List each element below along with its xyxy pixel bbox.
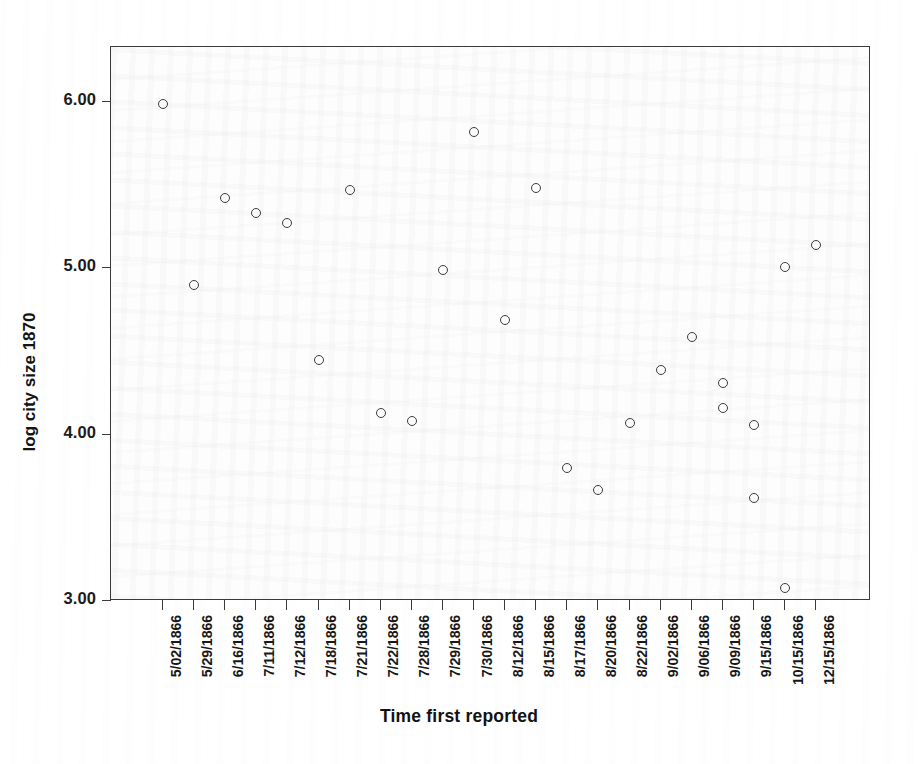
y-axis-tick <box>102 101 111 102</box>
x-axis-tick-label: 8/20/1866 <box>603 615 619 677</box>
data-point <box>376 408 386 418</box>
x-axis-tick <box>753 600 754 610</box>
x-axis-tick <box>318 600 319 610</box>
data-point <box>687 332 697 342</box>
y-axis-tick-label: 4.00 <box>63 423 96 442</box>
x-axis-tick-label: 6/16/1866 <box>230 615 246 677</box>
x-axis-tick-label: 8/22/1866 <box>634 615 650 677</box>
x-axis-tick-label: 7/28/1866 <box>416 615 432 677</box>
x-axis-tick <box>255 600 256 610</box>
x-axis-tick <box>162 600 163 610</box>
x-axis-tick <box>193 600 194 610</box>
data-point <box>718 403 728 413</box>
x-axis-tick <box>597 600 598 610</box>
x-axis-tick-label: 7/12/1866 <box>292 615 308 677</box>
x-axis-tick-label: 7/18/1866 <box>323 615 339 677</box>
data-point <box>749 493 759 503</box>
x-axis-tick <box>815 600 816 610</box>
x-axis-tick-label: 7/22/1866 <box>385 615 401 677</box>
data-point <box>189 280 199 290</box>
data-point <box>158 99 168 109</box>
data-point <box>749 420 759 430</box>
x-axis-tick <box>411 600 412 610</box>
x-axis-tick-label: 12/15/1866 <box>821 615 837 685</box>
data-point <box>593 485 603 495</box>
x-axis-tick-label: 7/29/1866 <box>447 615 463 677</box>
data-point <box>407 416 417 426</box>
x-axis-tick-label: 9/02/1866 <box>665 615 681 677</box>
data-point <box>220 193 230 203</box>
x-axis-tick <box>473 600 474 610</box>
scatter-chart: 3.004.005.006.00 log city size 1870 5/02… <box>0 0 918 764</box>
x-axis-tick-label: 7/11/1866 <box>261 615 277 676</box>
plot-paper-texture <box>111 47 869 599</box>
y-axis-tick-label: 6.00 <box>63 90 96 109</box>
x-axis-tick-label: 9/09/1866 <box>727 615 743 677</box>
x-axis-tick <box>442 600 443 610</box>
data-point <box>656 365 666 375</box>
x-axis-tick <box>380 600 381 610</box>
data-point <box>500 315 510 325</box>
x-axis-title: Time first reported <box>0 706 918 727</box>
data-point <box>531 183 541 193</box>
data-point <box>811 240 821 250</box>
data-point <box>780 583 790 593</box>
x-axis-tick <box>691 600 692 610</box>
x-axis-tick <box>504 600 505 610</box>
data-point <box>780 262 790 272</box>
y-axis-tick <box>102 434 111 435</box>
data-point <box>314 355 324 365</box>
x-axis-tick-label: 8/12/1866 <box>510 615 526 677</box>
x-axis-tick-label: 7/30/1866 <box>479 615 495 677</box>
x-axis-tick <box>784 600 785 610</box>
x-axis-tick <box>629 600 630 610</box>
x-axis-tick <box>722 600 723 610</box>
data-point <box>718 378 728 388</box>
x-axis-tick-label: 5/29/1866 <box>199 615 215 677</box>
y-axis-tick <box>102 600 111 601</box>
data-point <box>625 418 635 428</box>
x-axis-tick-label: 5/02/1866 <box>168 615 184 677</box>
y-axis-title: log city size 1870 <box>20 232 40 532</box>
x-axis-tick <box>660 600 661 610</box>
data-point <box>345 185 355 195</box>
x-axis-tick-label: 8/15/1866 <box>541 615 557 677</box>
x-axis-tick <box>349 600 350 610</box>
data-point <box>562 463 572 473</box>
x-axis-tick-label: 9/06/1866 <box>696 615 712 677</box>
x-axis-tick <box>566 600 567 610</box>
x-axis-tick <box>286 600 287 610</box>
y-axis-tick <box>102 267 111 268</box>
data-point <box>282 218 292 228</box>
data-point <box>251 208 261 218</box>
x-axis-tick-label: 9/15/1866 <box>758 615 774 677</box>
data-point <box>469 127 479 137</box>
y-axis-tick-label: 5.00 <box>63 256 96 275</box>
data-point <box>438 265 448 275</box>
plot-area <box>110 46 870 600</box>
x-axis-tick-label: 10/15/1866 <box>790 615 806 685</box>
x-axis-tick <box>224 600 225 610</box>
y-axis-tick-label: 3.00 <box>63 589 96 608</box>
x-axis-tick <box>535 600 536 610</box>
x-axis-tick-label: 7/21/1866 <box>354 615 370 677</box>
x-axis-tick-label: 8/17/1866 <box>572 615 588 677</box>
